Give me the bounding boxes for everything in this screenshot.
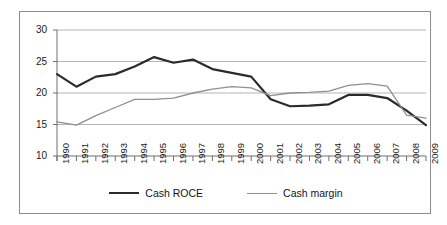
legend-label: Cash ROCE [145, 188, 203, 199]
y-tick-label: 20 [25, 88, 47, 98]
y-tick-label: 15 [25, 120, 47, 130]
x-tick-label: 1997 [197, 143, 207, 164]
legend-line-swatch-icon [109, 192, 139, 194]
x-tick-label: 1993 [119, 143, 129, 164]
x-tick-label: 2005 [352, 143, 362, 164]
x-tick-label: 2002 [294, 143, 304, 164]
x-tick-label: 2008 [411, 143, 421, 164]
x-tick-label: 2001 [275, 143, 285, 164]
x-tick-label: 2009 [430, 143, 440, 164]
y-tick-label: 25 [25, 57, 47, 67]
x-tick-label: 2007 [391, 143, 401, 164]
legend-item-cash-roce: Cash ROCE [109, 188, 203, 199]
x-tick-label: 2000 [255, 143, 265, 164]
series-line-cash-margin [57, 84, 426, 126]
x-tick-label: 1992 [100, 143, 110, 164]
chart-frame: 1015202530 19901991199219931994199519961… [19, 11, 431, 214]
x-tick-label: 1996 [178, 143, 188, 164]
x-tick-label: 2003 [313, 143, 323, 164]
y-tick-label: 10 [25, 151, 47, 161]
legend-line-swatch-icon [247, 193, 277, 194]
x-tick-label: 1998 [216, 143, 226, 164]
x-tick-label: 1995 [158, 143, 168, 164]
x-tick-label: 2004 [333, 143, 343, 164]
chart-legend: Cash ROCE Cash margin [20, 184, 432, 202]
series-line-cash-roce [57, 57, 426, 125]
x-tick-label: 1990 [61, 143, 71, 164]
x-tick-label: 1999 [236, 143, 246, 164]
legend-label: Cash margin [283, 188, 343, 199]
x-tick-label: 2006 [372, 143, 382, 164]
x-tick-label: 1991 [80, 143, 90, 164]
legend-item-cash-margin: Cash margin [247, 188, 343, 199]
x-tick-label: 1994 [139, 143, 149, 164]
y-tick-label: 30 [25, 25, 47, 35]
